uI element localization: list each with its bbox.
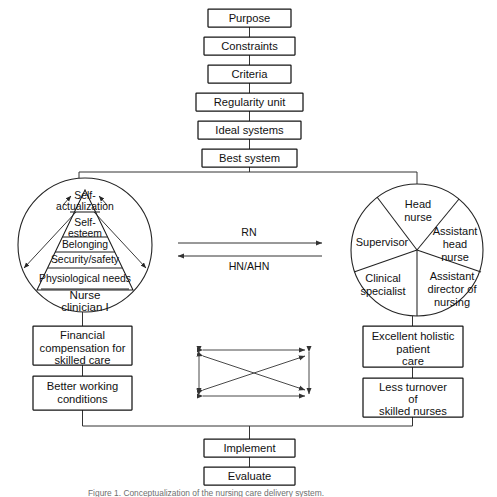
excellent-care-line-2: patient bbox=[396, 343, 430, 355]
better-working-line-1: Better working bbox=[47, 380, 119, 392]
exchange-arrows-group: RN HN/AHN bbox=[178, 226, 322, 272]
flow-box-ideal-systems[interactable]: Ideal systems bbox=[198, 121, 301, 139]
excellent-care-line-1: Excellent holistic bbox=[372, 330, 455, 342]
left-circle-group[interactable]: Self- actualization Self- esteem Belongi… bbox=[18, 178, 152, 313]
sector-assistant-director-line-2: director of bbox=[428, 283, 478, 295]
pyramid-tier-2-line-2: esteem bbox=[68, 228, 102, 239]
sector-clinical-specialist-line-2: specialist bbox=[360, 285, 405, 297]
financial-compensation-line-1: Financial bbox=[60, 329, 105, 341]
flow-box-financial-compensation[interactable]: Financial compensation for skilled care bbox=[33, 326, 132, 366]
better-working-line-2: conditions bbox=[57, 393, 108, 405]
flow-box-ideal-systems-label: Ideal systems bbox=[215, 124, 284, 136]
sector-head-nurse-line-1: Head bbox=[405, 198, 431, 210]
flow-box-implement-label: Implement bbox=[223, 442, 276, 454]
financial-compensation-line-3: skilled care bbox=[55, 354, 111, 366]
financial-compensation-line-2: compensation for bbox=[40, 342, 126, 354]
flow-box-constraints-label: Constraints bbox=[221, 40, 278, 52]
pyramid-tier-5-label: Physiological needs bbox=[39, 273, 131, 284]
flow-box-less-turnover[interactable]: Less turnover of skilled nurses bbox=[363, 378, 463, 417]
pyramid-tier-3-label: Belonging bbox=[62, 239, 108, 250]
pyramid-tier-2-line-1: Self- bbox=[74, 217, 95, 228]
flow-box-evaluate-label: Evaluate bbox=[228, 470, 272, 482]
flow-box-purpose[interactable]: Purpose bbox=[208, 9, 291, 27]
excellent-care-line-3: care bbox=[402, 355, 424, 367]
flow-box-constraints[interactable]: Constraints bbox=[204, 37, 295, 55]
sector-clinical-specialist-line-1: Clinical bbox=[365, 272, 400, 284]
sector-assistant-director-line-1: Assistant bbox=[430, 270, 475, 282]
sector-supervisor-label: Supervisor bbox=[356, 236, 409, 248]
flow-box-evaluate[interactable]: Evaluate bbox=[204, 467, 295, 485]
flow-box-criteria-label: Criteria bbox=[231, 68, 268, 80]
less-turnover-line-2: of bbox=[408, 393, 418, 405]
exchange-arrow-bottom-label: HN/AHN bbox=[229, 260, 270, 272]
less-turnover-line-3: skilled nurses bbox=[379, 405, 447, 417]
exchange-arrow-top-label: RN bbox=[241, 226, 256, 238]
flow-box-excellent-holistic-care[interactable]: Excellent holistic patient care bbox=[363, 326, 463, 367]
sector-head-nurse-line-2: nurse bbox=[404, 211, 432, 223]
figure-caption: Figure 1. Conceptualization of the nursi… bbox=[88, 488, 324, 497]
sector-assistant-head-nurse-line-3: nurse bbox=[441, 251, 469, 263]
flow-box-better-working-conditions[interactable]: Better working conditions bbox=[33, 376, 132, 410]
flow-box-regularity-unit[interactable]: Regularity unit bbox=[196, 93, 303, 111]
flowchart-diagram: Purpose Constraints Criteria Regularity … bbox=[0, 0, 497, 497]
figure-container: Purpose Constraints Criteria Regularity … bbox=[0, 0, 497, 497]
sector-assistant-head-nurse-line-2: head bbox=[443, 238, 467, 250]
crossing-arrows-group bbox=[199, 350, 309, 396]
less-turnover-line-1: Less turnover bbox=[379, 381, 447, 393]
pyramid-tier-4-label: Security/safety bbox=[51, 254, 120, 265]
pyramid-tier-1-line-2: actualization bbox=[56, 201, 114, 212]
flow-box-best-system[interactable]: Best system bbox=[202, 149, 297, 167]
sector-assistant-head-nurse-line-1: Assistant bbox=[433, 225, 478, 237]
flow-box-criteria[interactable]: Criteria bbox=[208, 65, 291, 83]
pyramid-tier-1-line-1: Self- bbox=[74, 190, 95, 201]
flow-box-implement[interactable]: Implement bbox=[204, 439, 295, 457]
sector-assistant-director-line-3: nursing bbox=[434, 296, 470, 308]
flow-box-purpose-label: Purpose bbox=[229, 12, 271, 24]
flow-box-regularity-unit-label: Regularity unit bbox=[214, 96, 286, 108]
right-circle-group[interactable]: Head nurse Assistant head nurse Assistan… bbox=[351, 184, 483, 316]
left-circle-label-line-2: clinician I bbox=[61, 300, 109, 313]
flow-box-best-system-label: Best system bbox=[219, 152, 280, 164]
